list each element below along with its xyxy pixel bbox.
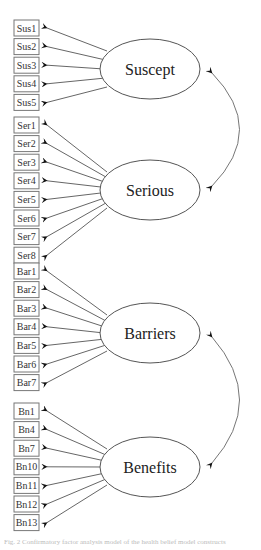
factor-suscept: Sus1Sus2Sus3Sus4Sus5Suscept bbox=[14, 20, 200, 110]
latent-label: Serious bbox=[126, 182, 174, 199]
loading-arrow bbox=[47, 308, 105, 327]
indicator-sus1: Sus1 bbox=[14, 20, 39, 36]
indicator-sus5: Sus5 bbox=[14, 94, 39, 110]
factor-serious: Ser1Ser2Ser3Ser4Ser5Ser6Ser7Ser8Serious bbox=[14, 117, 200, 263]
covariance-arrow-barriers-benefits bbox=[212, 337, 240, 463]
indicator-label: Bn12 bbox=[16, 499, 38, 510]
loading-arrow bbox=[47, 65, 104, 69]
indicator-bar6: Bar6 bbox=[14, 356, 39, 372]
loading-arrow bbox=[47, 290, 106, 321]
indicator-bn1: Bn1 bbox=[14, 403, 39, 419]
loading-arrow bbox=[47, 181, 104, 188]
latent-benefits: Benefits bbox=[100, 437, 200, 497]
latent-serious: Serious bbox=[100, 160, 200, 220]
loading-arrow bbox=[47, 28, 107, 51]
indicator-label: Ser8 bbox=[17, 250, 35, 261]
indicator-label: Bn11 bbox=[16, 480, 37, 491]
indicator-label: Ser7 bbox=[17, 231, 35, 242]
indicator-label: Bar6 bbox=[17, 359, 36, 370]
loading-arrow bbox=[47, 327, 104, 333]
indicator-ser6: Ser6 bbox=[14, 210, 39, 226]
indicator-ser4: Ser4 bbox=[14, 173, 39, 189]
indicator-bn7: Bn7 bbox=[14, 440, 39, 456]
indicator-bar7: Bar7 bbox=[14, 375, 39, 391]
latent-label: Barriers bbox=[124, 325, 176, 342]
loading-arrow bbox=[47, 162, 105, 182]
indicator-bn10: Bn10 bbox=[14, 459, 39, 475]
indicator-label: Bn7 bbox=[18, 443, 35, 454]
indicator-label: Bn13 bbox=[16, 517, 38, 528]
indicator-bn4: Bn4 bbox=[14, 422, 39, 438]
indicator-label: Sus2 bbox=[17, 41, 36, 52]
indicator-label: Sus4 bbox=[17, 78, 36, 89]
loading-arrow bbox=[47, 485, 107, 523]
latent-label: Benefits bbox=[123, 459, 176, 476]
latent-barriers: Barriers bbox=[100, 303, 200, 363]
indicator-sus3: Sus3 bbox=[14, 57, 39, 73]
loading-arrow bbox=[47, 78, 106, 84]
latent-label: Suscept bbox=[125, 61, 175, 79]
loading-arrow bbox=[47, 339, 105, 345]
indicator-label: Bn1 bbox=[18, 406, 35, 417]
indicator-bar3: Bar3 bbox=[14, 300, 39, 316]
loading-arrow bbox=[47, 271, 107, 315]
loading-arrow bbox=[47, 87, 107, 102]
indicator-label: Sus3 bbox=[17, 60, 36, 71]
indicator-ser7: Ser7 bbox=[14, 229, 39, 245]
sem-diagram: Sus1Sus2Sus3Sus4Sus5SusceptSer1Ser2Ser3S… bbox=[0, 0, 261, 550]
indicator-ser5: Ser5 bbox=[14, 191, 39, 207]
loading-arrow bbox=[47, 351, 107, 383]
indicator-label: Ser1 bbox=[17, 120, 35, 131]
loading-arrow bbox=[47, 193, 104, 200]
indicator-label: Ser3 bbox=[17, 157, 35, 168]
figure-caption: Fig. 2 Confirmatory factor analysis mode… bbox=[4, 538, 259, 546]
indicator-ser8: Ser8 bbox=[14, 247, 39, 263]
indicator-ser2: Ser2 bbox=[14, 136, 39, 152]
indicator-ser1: Ser1 bbox=[14, 117, 39, 133]
indicator-bar1: Bar1 bbox=[14, 263, 39, 279]
indicator-sus4: Sus4 bbox=[14, 76, 39, 92]
indicator-label: Bn10 bbox=[16, 461, 38, 472]
indicator-label: Sus5 bbox=[17, 97, 36, 108]
indicator-label: Ser5 bbox=[17, 194, 35, 205]
indicator-label: Bar2 bbox=[17, 284, 36, 295]
indicator-label: Bar3 bbox=[17, 303, 36, 314]
indicator-bn13: Bn13 bbox=[14, 515, 39, 531]
loading-arrow bbox=[47, 448, 105, 461]
indicator-bar4: Bar4 bbox=[14, 319, 39, 335]
indicator-bn12: Bn12 bbox=[14, 496, 39, 512]
indicator-bn11: Bn11 bbox=[14, 477, 39, 493]
indicator-label: Bar7 bbox=[17, 377, 36, 388]
indicator-bar2: Bar2 bbox=[14, 282, 39, 298]
covariance-arrow-suscept-serious bbox=[212, 73, 240, 186]
indicator-bar5: Bar5 bbox=[14, 337, 39, 353]
indicator-label: Bar1 bbox=[17, 266, 36, 277]
loading-arrow bbox=[47, 411, 107, 449]
factor-barriers: Bar1Bar2Bar3Bar4Bar5Bar6Bar7Barriers bbox=[14, 263, 200, 391]
indicator-ser3: Ser3 bbox=[14, 154, 39, 170]
factor-benefits: Bn1Bn4Bn7Bn10Bn11Bn12Bn13Benefits bbox=[14, 403, 200, 531]
loading-arrow bbox=[47, 47, 106, 60]
indicator-label: Sus1 bbox=[17, 23, 36, 34]
indicator-label: Ser4 bbox=[17, 175, 35, 186]
indicator-label: Ser2 bbox=[17, 138, 35, 149]
indicator-sus2: Sus2 bbox=[14, 39, 39, 55]
loading-arrow bbox=[47, 345, 106, 364]
indicator-label: Ser6 bbox=[17, 213, 35, 224]
indicator-label: Bar5 bbox=[17, 340, 36, 351]
indicator-label: Bn4 bbox=[18, 424, 35, 435]
indicator-label: Bar4 bbox=[17, 321, 36, 332]
latent-suscept: Suscept bbox=[100, 39, 200, 99]
